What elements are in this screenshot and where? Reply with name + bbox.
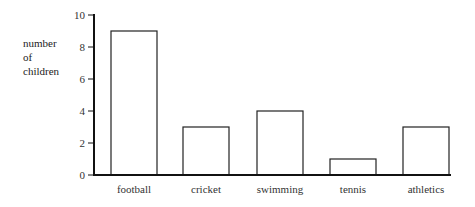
x-tick-label: athletics <box>408 183 445 195</box>
x-tick-label: tennis <box>340 183 366 195</box>
y-tick-label: 6 <box>80 73 86 85</box>
y-tick-label: 0 <box>80 169 86 181</box>
y-tick-label: 2 <box>80 137 86 149</box>
bar-swimming <box>257 111 303 175</box>
bar-tennis <box>330 159 376 175</box>
y-tick-label: 8 <box>80 41 86 53</box>
x-tick-label: football <box>117 183 151 195</box>
bar-football <box>111 31 157 175</box>
bar-athletics <box>403 127 449 175</box>
y-tick-label: 10 <box>74 9 86 21</box>
bar-cricket <box>183 127 229 175</box>
y-tick-label: 4 <box>80 105 86 117</box>
bar-chart: footballcricketswimmingtennisathletics02… <box>0 0 475 207</box>
x-tick-label: swimming <box>257 183 304 195</box>
x-tick-label: cricket <box>191 183 221 195</box>
